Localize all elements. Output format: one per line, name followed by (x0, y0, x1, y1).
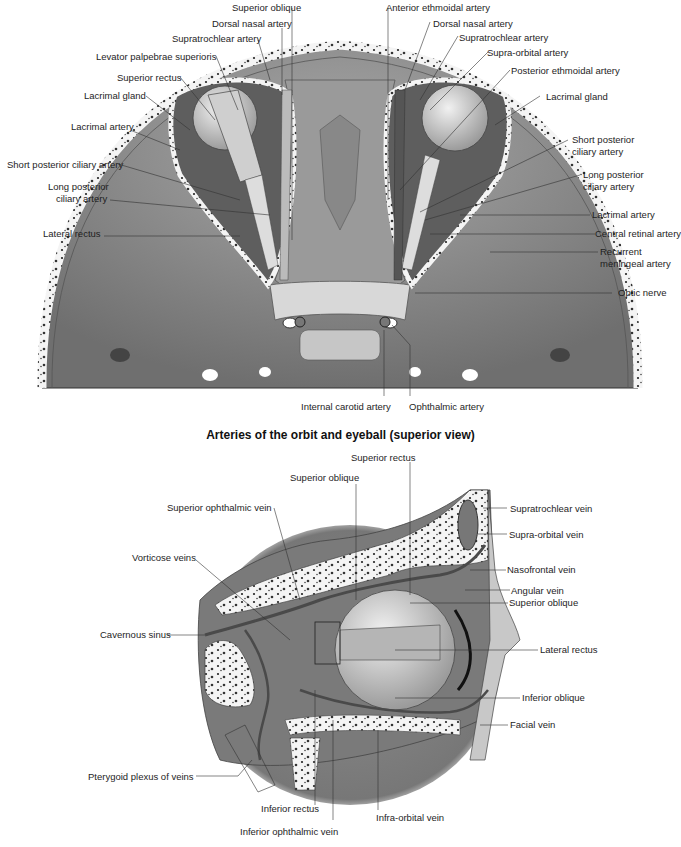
label-short-posterior-right-1: Short posterior (572, 134, 634, 145)
label-cavernous-sinus: Cavernous sinus (100, 629, 171, 640)
label-short-posterior-right-2: ciliary artery (572, 146, 623, 157)
label-inferior-rectus: Inferior rectus (261, 803, 319, 814)
label-superior-oblique-bottom-top: Superior oblique (290, 472, 359, 483)
right-eyeball (422, 85, 488, 151)
label-long-posterior-left-1: Long posterior (48, 181, 109, 192)
label-short-posterior-ciliary-artery-left: Short posterior ciliary artery (7, 159, 123, 170)
label-lateral-rectus-bottom: Lateral rectus (540, 644, 598, 655)
label-facial-vein: Facial vein (510, 719, 555, 730)
label-supra-orbital-vein: Supra-orbital vein (509, 529, 583, 540)
label-pterygoid-plexus: Pterygoid plexus of veins (88, 771, 194, 782)
label-lacrimal-artery-right: Lacrimal artery (592, 209, 655, 220)
label-recurrent-meningeal-1: Recurrent (600, 246, 642, 257)
label-lacrimal-artery-left: Lacrimal artery (71, 121, 134, 132)
label-lacrimal-gland-left: Lacrimal gland (84, 90, 146, 101)
label-nasofrontal-vein: Nasofrontal vein (507, 564, 576, 575)
figure-caption: Arteries of the orbit and eyeball (super… (0, 428, 681, 442)
label-inferior-ophthalmic-vein: Inferior ophthalmic vein (240, 826, 338, 837)
label-inferior-oblique: Inferior oblique (522, 692, 585, 703)
label-infra-orbital-vein: Infra-orbital vein (376, 812, 444, 823)
label-posterior-ethmoidal-artery: Posterior ethmoidal artery (511, 65, 620, 76)
label-optic-nerve: Optic nerve (618, 287, 667, 298)
label-ophthalmic-artery: Ophthalmic artery (409, 401, 484, 412)
label-lateral-rectus-top: Lateral rectus (43, 228, 101, 239)
bottom-lateral-view (198, 490, 520, 805)
label-vorticose-veins: Vorticose veins (132, 552, 196, 563)
label-supratrochlear-artery-right: Supratrochlear artery (459, 32, 548, 43)
label-anterior-ethmoidal-artery: Anterior ethmoidal artery (386, 2, 490, 13)
label-long-posterior-left-2: ciliary artery (56, 193, 107, 204)
label-internal-carotid-artery: Internal carotid artery (301, 401, 391, 412)
label-supra-orbital-artery: Supra-orbital artery (487, 47, 568, 58)
label-supratrochlear-artery-left: Supratrochlear artery (172, 33, 261, 44)
label-superior-rectus-top: Superior rectus (117, 72, 181, 83)
label-superior-oblique-top: Superior oblique (232, 2, 301, 13)
label-supratrochlear-vein: Supratrochlear vein (510, 503, 592, 514)
label-central-retinal-artery: Central retinal artery (595, 228, 681, 239)
label-long-posterior-right-2: ciliary artery (583, 181, 634, 192)
label-dorsal-nasal-artery-right: Dorsal nasal artery (433, 18, 513, 29)
label-recurrent-meningeal-2: meningeal artery (600, 258, 671, 269)
label-superior-oblique-bottom-right: Superior oblique (509, 597, 578, 608)
label-superior-rectus-bottom: Superior rectus (351, 452, 415, 463)
label-dorsal-nasal-artery-left: Dorsal nasal artery (212, 18, 292, 29)
label-levator-palpebrae-superioris: Levator palpebrae superioris (96, 51, 216, 62)
label-superior-ophthalmic-vein: Superior ophthalmic vein (167, 502, 272, 513)
label-long-posterior-right-1: Long posterior (583, 169, 644, 180)
label-lacrimal-gland-right: Lacrimal gland (546, 91, 608, 102)
label-angular-vein: Angular vein (511, 585, 564, 596)
